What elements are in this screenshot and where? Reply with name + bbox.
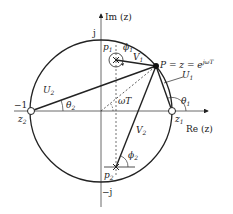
P-label: P = z = ejωT xyxy=(159,58,214,70)
phi2-arc xyxy=(121,156,128,167)
z-plane-diagram: Im (z) Re (z) j −j −1 P = z = ejωT p1 p2… xyxy=(0,0,233,214)
V2-label: V2 xyxy=(136,125,147,136)
omegaT-label: ωT xyxy=(118,96,132,106)
phi1-label: ϕ1 xyxy=(123,42,133,53)
point-P xyxy=(153,63,159,69)
p2-label: p2 xyxy=(104,170,114,181)
vector-V2 xyxy=(116,66,156,167)
neg-j-label: −j xyxy=(102,187,112,197)
U1-leader xyxy=(164,77,183,83)
vector-U1 xyxy=(156,66,172,111)
phi2-label: ϕ2 xyxy=(128,150,138,161)
neg-one-label: −1 xyxy=(14,100,27,110)
theta2-label: θ2 xyxy=(66,100,75,111)
z1-label: z1 xyxy=(174,114,184,125)
j-label: j xyxy=(92,28,96,38)
omegaT-arc xyxy=(110,103,113,111)
real-axis-label: Re (z) xyxy=(186,124,213,134)
z2-label: z2 xyxy=(17,114,27,125)
U1-label: U1 xyxy=(182,70,193,81)
theta1-label: θ1 xyxy=(181,96,190,107)
p1-label: p1 xyxy=(103,42,113,53)
imag-axis-label: Im (z) xyxy=(105,12,132,22)
theta2-arc xyxy=(61,100,63,111)
U2-label: U2 xyxy=(43,85,55,96)
zero-z2-marker xyxy=(28,108,35,115)
